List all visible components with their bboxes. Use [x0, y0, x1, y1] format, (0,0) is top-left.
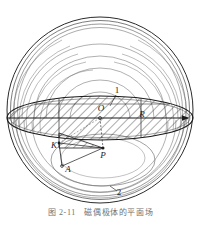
label-P: P: [99, 150, 106, 160]
figure-caption: 图 2-11 磁偶极体的平面场: [0, 208, 201, 218]
label-region-1: 1: [115, 85, 120, 95]
label-O: O: [98, 103, 105, 113]
figure-container: O R P K A 1 2 图 2-11 磁偶极体的平面场: [0, 0, 201, 226]
label-R: R: [138, 109, 145, 119]
label-K: K: [50, 140, 58, 150]
label-A: A: [64, 164, 71, 174]
label-region-2: 2: [117, 187, 122, 197]
point-marker-K: [58, 142, 61, 145]
figure-diagram: O R P K A 1 2: [0, 0, 201, 226]
